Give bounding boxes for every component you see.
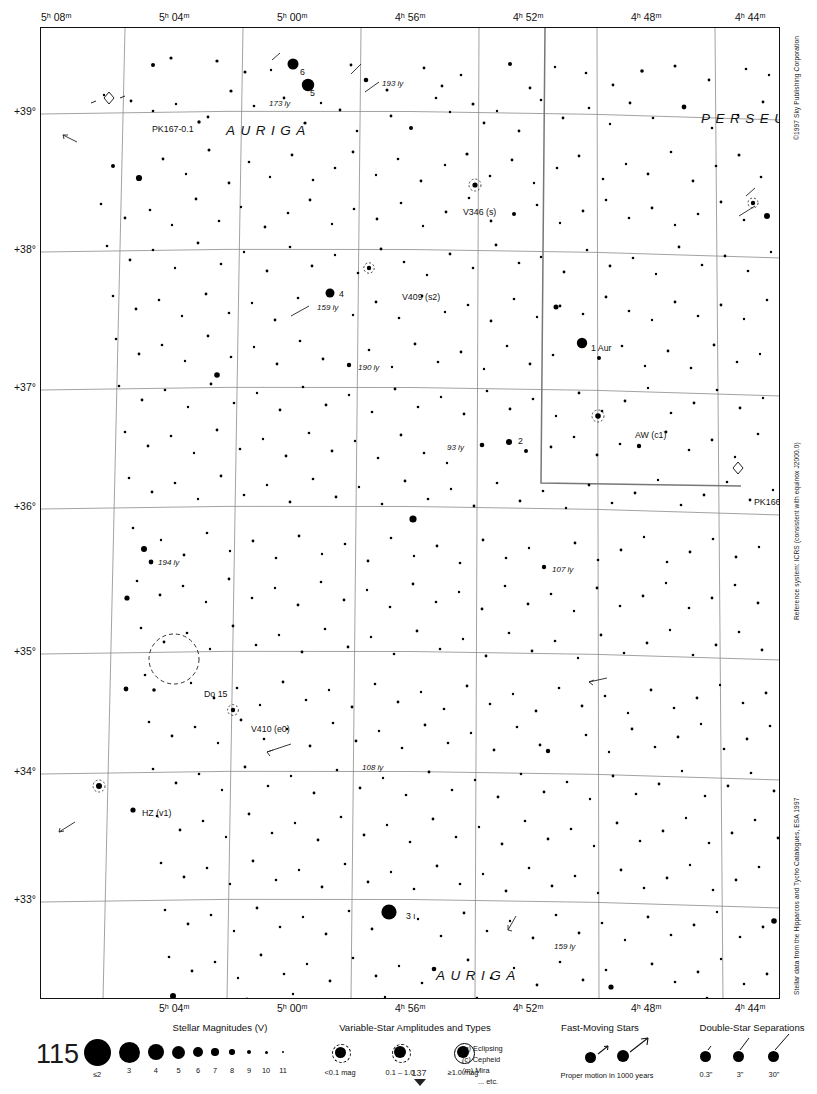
star-point: [493, 749, 496, 752]
star-point: [248, 161, 251, 164]
star-point: [597, 892, 599, 894]
star-point: [631, 728, 634, 731]
star-point: [187, 406, 189, 408]
star-point: [621, 345, 624, 348]
star-point: [655, 273, 657, 275]
legend-fastmoving-caption: Proper motion in 1000 years: [527, 1071, 687, 1080]
star-point: [463, 912, 466, 915]
star-point: [353, 208, 356, 211]
star-point: [256, 392, 258, 394]
dec-tick-4: +35°: [0, 645, 36, 657]
star-point: [441, 85, 444, 88]
star-point: [445, 211, 448, 214]
star-point: [163, 641, 166, 644]
star-point: [260, 954, 263, 957]
star-point: [460, 351, 463, 354]
map-label-10: 1 Aur: [591, 344, 612, 353]
star-point: [168, 956, 171, 959]
star-point: [220, 263, 223, 266]
star-point: [218, 220, 221, 223]
star-point: [647, 916, 650, 919]
map-label-13: 2: [518, 437, 523, 446]
ra-tick-top-5: 4ʰ 48ᵐ: [631, 11, 661, 23]
star-point: [397, 701, 400, 704]
star-point: [334, 167, 337, 170]
star-point: [612, 775, 615, 778]
star-point: [512, 212, 516, 216]
magnitude-dot-9: [247, 1050, 251, 1054]
star-point: [381, 904, 396, 919]
star-point: [536, 984, 539, 987]
legend-variables-title: Variable-Star Amplitudes and Types: [300, 1022, 530, 1033]
star-point: [375, 301, 378, 304]
star-point: [620, 549, 623, 552]
star-point: [320, 581, 323, 584]
star-point: [512, 693, 514, 695]
star-point: [352, 314, 354, 316]
star-point: [466, 685, 469, 688]
star-point: [742, 702, 745, 705]
star-point: [670, 412, 673, 415]
star-point: [727, 785, 730, 788]
star-point: [444, 311, 446, 313]
star-point: [506, 439, 512, 445]
star-point: [637, 444, 641, 448]
star-point: [581, 705, 584, 708]
star-point: [397, 158, 400, 161]
star-point: [483, 368, 485, 370]
star-point: [144, 674, 147, 677]
copyright-credit: ©1997 Sky Publishing Corporation: [793, 36, 800, 140]
star-point: [317, 839, 320, 842]
star-point: [536, 316, 538, 318]
star-point: [682, 105, 687, 110]
magnitude-label-11: 11: [263, 1066, 303, 1075]
star-point: [720, 958, 722, 960]
star-point: [216, 429, 219, 432]
star-point: [420, 691, 422, 693]
star-point: [662, 830, 665, 833]
star-point: [359, 787, 362, 790]
star-point: [141, 546, 147, 552]
legend-type-c-code: (c): [462, 1055, 471, 1064]
star-point: [467, 959, 470, 962]
star-point: [643, 887, 646, 890]
star-point: [297, 604, 300, 607]
star-point: [206, 867, 209, 870]
star-point: [374, 683, 377, 686]
star-point: [279, 926, 282, 929]
star-point: [690, 367, 693, 370]
star-point: [458, 591, 460, 593]
star-point: [609, 123, 611, 125]
star-point: [713, 344, 716, 347]
star-point: [170, 435, 173, 438]
map-label-7: 4: [339, 290, 344, 299]
star-point: [210, 383, 213, 386]
star-point: [616, 822, 619, 825]
star-point: [193, 452, 195, 454]
star-point: [496, 482, 499, 485]
star-point: [439, 648, 442, 651]
ra-grid-lines: [103, 28, 723, 999]
star-point: [209, 648, 211, 650]
star-point: [516, 726, 519, 729]
star-point: [505, 890, 508, 893]
star-point: [158, 299, 161, 302]
sky-chart-map[interactable]: AURIGAPERSEUSAURIGA PK167-0.165173 ly193…: [40, 27, 780, 999]
map-label-15: PK166-6.1: [754, 498, 780, 507]
star-point: [509, 408, 512, 411]
star-point: [243, 494, 246, 497]
star-point: [670, 151, 673, 154]
star-point: [229, 550, 231, 552]
star-point: [382, 777, 384, 779]
star-point: [446, 462, 448, 464]
star-point: [267, 785, 270, 788]
star-point: [262, 438, 264, 440]
star-point: [601, 410, 604, 413]
star-point: [363, 834, 366, 837]
star-point: [604, 695, 607, 698]
star-point: [451, 789, 454, 792]
star-point: [625, 163, 627, 165]
star-point: [444, 164, 446, 166]
star-point: [371, 411, 374, 414]
constellation-name-perseus-1: PERSEUS: [701, 111, 780, 126]
